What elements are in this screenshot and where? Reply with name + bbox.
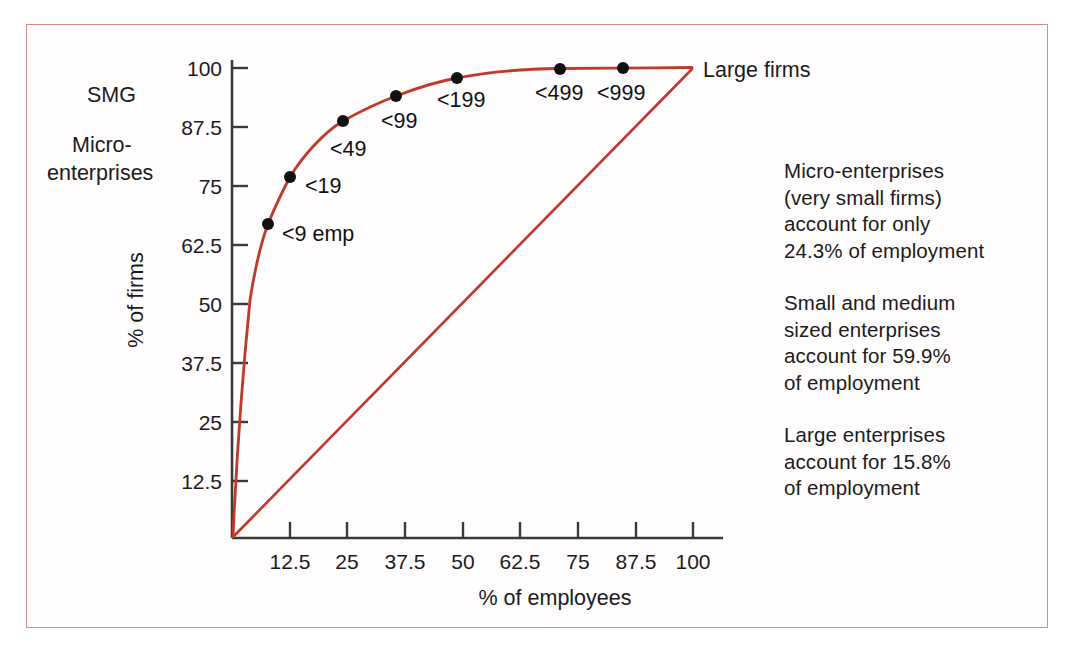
micro-enterprises-label-line2: enterprises bbox=[47, 161, 153, 185]
data-point-lt199[interactable] bbox=[451, 72, 463, 84]
axes-group bbox=[232, 60, 723, 538]
y-tick-label-37-5: 37.5 bbox=[181, 352, 222, 375]
x-axis-ticks bbox=[290, 522, 693, 538]
line-of-equality bbox=[233, 69, 692, 537]
x-tick-label-25: 25 bbox=[335, 550, 358, 573]
data-point-label-lt199: <199 bbox=[437, 88, 485, 112]
y-tick-label-87-5: 87.5 bbox=[181, 116, 222, 139]
figure-container: 100 87.5 75 62.5 50 37.5 25 12.5 12.5 25… bbox=[0, 0, 1074, 660]
x-tick-label-100: 100 bbox=[675, 550, 710, 573]
y-tick-label-75: 75 bbox=[199, 175, 222, 198]
y-axis-title: % of firms bbox=[124, 252, 148, 348]
y-tick-label-12-5: 12.5 bbox=[181, 470, 222, 493]
data-point-lt19[interactable] bbox=[284, 171, 296, 183]
data-point-lt999[interactable] bbox=[617, 62, 629, 74]
note-large-enterprises: Large enterprises account for 15.8% of e… bbox=[784, 422, 951, 502]
y-axis-tick-labels: 100 87.5 75 62.5 50 37.5 25 12.5 bbox=[181, 57, 222, 493]
data-point-label-lt99: <99 bbox=[381, 109, 417, 133]
data-point-label-lt19: <19 bbox=[305, 174, 341, 198]
x-tick-label-75: 75 bbox=[566, 550, 589, 573]
x-axis-tick-labels: 12.5 25 37.5 50 62.5 75 87.5 100 bbox=[270, 550, 711, 573]
x-tick-label-50: 50 bbox=[451, 550, 474, 573]
large-firms-label: Large firms bbox=[703, 58, 811, 82]
data-point-lt49[interactable] bbox=[337, 115, 349, 127]
y-tick-label-62-5: 62.5 bbox=[181, 234, 222, 257]
y-tick-label-100: 100 bbox=[187, 57, 222, 80]
x-tick-label-12-5: 12.5 bbox=[270, 550, 311, 573]
data-point-label-lt999: <999 bbox=[597, 81, 645, 105]
data-point-label-lt49: <49 bbox=[330, 137, 366, 161]
y-tick-label-50: 50 bbox=[199, 293, 222, 316]
data-point-lt9[interactable] bbox=[262, 218, 274, 230]
data-point-labels: <9 emp <19 <49 <99 <199 <499 <999 bbox=[282, 81, 645, 246]
data-point-lt499[interactable] bbox=[554, 63, 566, 75]
note-small-medium-enterprises: Small and medium sized enterprises accou… bbox=[784, 290, 955, 396]
x-axis-title: % of employees bbox=[479, 586, 632, 610]
data-point-label-lt499: <499 bbox=[535, 81, 583, 105]
y-tick-label-25: 25 bbox=[199, 411, 222, 434]
micro-enterprises-label-line1: Micro- bbox=[72, 133, 132, 157]
note-micro-enterprises: Micro-enterprises (very small firms) acc… bbox=[784, 158, 984, 264]
smg-label: SMG bbox=[87, 83, 136, 107]
x-tick-label-87-5: 87.5 bbox=[616, 550, 657, 573]
data-point-label-lt9: <9 emp bbox=[282, 222, 354, 246]
x-tick-label-62-5: 62.5 bbox=[500, 550, 541, 573]
x-tick-label-37-5: 37.5 bbox=[385, 550, 426, 573]
data-point-lt99[interactable] bbox=[390, 90, 402, 102]
